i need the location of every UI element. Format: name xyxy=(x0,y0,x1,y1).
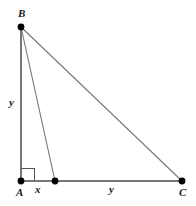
vertex-label-A: A xyxy=(16,187,23,198)
side-label-leg-ba: y xyxy=(9,97,14,108)
side-label-segment-dc: y xyxy=(109,184,114,195)
vertex-label-C: C xyxy=(179,187,186,198)
geometry-figure: B A C y x y xyxy=(0,0,196,206)
segment-BC xyxy=(21,27,182,181)
vertex-dot-B xyxy=(18,24,25,31)
figure-canvas xyxy=(0,0,196,206)
side-label-segment-ad: x xyxy=(35,184,41,195)
vertex-label-B: B xyxy=(18,8,25,19)
vertex-dot-C xyxy=(179,178,186,185)
vertex-dot-D xyxy=(52,178,59,185)
segment-BD xyxy=(21,27,55,181)
vertex-dot-A xyxy=(18,178,25,185)
